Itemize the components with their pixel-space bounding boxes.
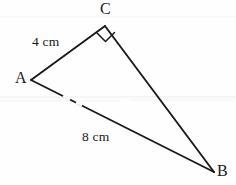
triangle-diagram: C A B 4 cm 8 cm — [0, 0, 236, 185]
side-AB — [31, 80, 214, 172]
vertex-label-a: A — [15, 70, 27, 86]
scan-artifacts — [0, 16, 236, 102]
vertex-label-c: C — [100, 1, 111, 17]
vertex-label-b: B — [217, 163, 228, 179]
triangle-drawing — [0, 0, 236, 185]
side-length-label-ac: 4 cm — [32, 35, 59, 49]
side-length-label-ab: 8 cm — [82, 130, 109, 144]
